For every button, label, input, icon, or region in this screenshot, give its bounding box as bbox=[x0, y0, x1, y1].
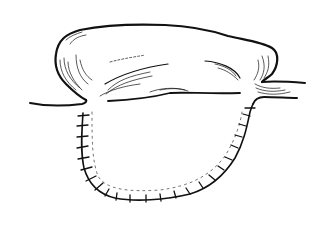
flap-fold-lower bbox=[108, 93, 240, 101]
illustration-canvas bbox=[0, 0, 326, 227]
skin-edge-right-upper bbox=[262, 82, 305, 83]
sutures bbox=[77, 108, 255, 202]
defect-inner-edge bbox=[92, 112, 242, 191]
skin-edge-left bbox=[30, 100, 86, 105]
flap-drawing bbox=[0, 0, 326, 227]
skin-edge-right-lower bbox=[253, 97, 297, 104]
flap-fold-upper bbox=[105, 64, 168, 84]
